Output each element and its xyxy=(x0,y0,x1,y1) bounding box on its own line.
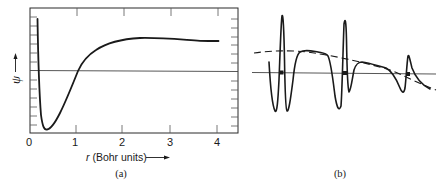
panel-a-y-axis-label: ψ xyxy=(8,53,23,84)
figure: ψ 0 1 2 3 4 r (Bohr units) (a) xyxy=(0,0,446,185)
x-tick-2: 2 xyxy=(119,136,125,148)
node-marker-2 xyxy=(343,71,348,75)
svg-text:r (Bohr units): r (Bohr units) xyxy=(86,151,147,163)
node-marker-3 xyxy=(406,72,410,76)
panel-a-right-ticks xyxy=(231,19,238,126)
panel-a-x-axis-title: r (Bohr units) xyxy=(86,151,170,163)
panel-a-zero-line xyxy=(30,71,238,72)
panel-a-x-tick-labels: 0 1 2 3 4 xyxy=(26,136,220,148)
panel-a-label: (a) xyxy=(115,168,127,180)
panel-b-label: (b) xyxy=(334,168,347,180)
node-marker-1 xyxy=(279,71,284,75)
x-tick-0: 0 xyxy=(26,136,32,148)
panel-b-wavefunction xyxy=(269,15,430,111)
x-tick-1: 1 xyxy=(72,136,78,148)
panel-b: (b) xyxy=(252,15,436,180)
x-tick-3: 3 xyxy=(167,136,173,148)
panel-a-left-ticks xyxy=(30,17,37,125)
panel-a: ψ 0 1 2 3 4 r (Bohr units) (a) xyxy=(8,8,239,180)
psi-symbol: ψ xyxy=(8,75,23,84)
x-axis-units: (Bohr units) xyxy=(90,151,147,163)
x-tick-4: 4 xyxy=(214,136,220,148)
panel-a-psi-curve xyxy=(38,19,219,130)
